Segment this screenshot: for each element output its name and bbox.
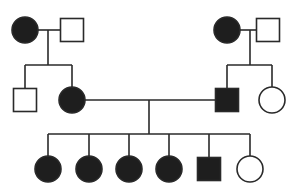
- affected-female-iii-1: [35, 156, 61, 182]
- affected-male-iii-5: [198, 158, 221, 181]
- affected-female-iii-4: [156, 156, 182, 182]
- pedigree-chart: [0, 0, 296, 191]
- affected-female-i-3: [214, 17, 240, 43]
- unaffected-female-iii-6: [237, 156, 263, 182]
- affected-female-i-1: [12, 17, 38, 43]
- unaffected-male-i-2: [61, 19, 84, 42]
- affected-female-iii-2: [76, 156, 102, 182]
- unaffected-male-i-4: [257, 19, 280, 42]
- affected-female-iii-3: [116, 156, 142, 182]
- unaffected-male-ii-1: [14, 89, 37, 112]
- affected-female-ii-2: [59, 87, 85, 113]
- unaffected-female-ii-4: [259, 87, 285, 113]
- affected-male-ii-3: [216, 89, 239, 112]
